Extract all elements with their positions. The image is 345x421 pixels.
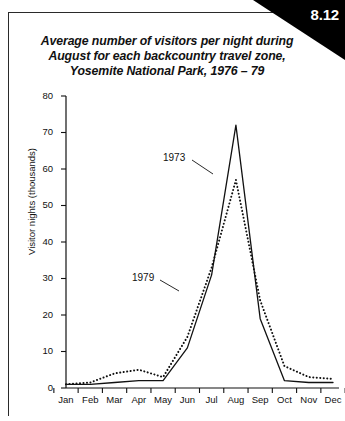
y-tick-label: 0 bbox=[27, 382, 53, 393]
figure-container: 8.12 Average number of visitors per nigh… bbox=[0, 0, 345, 421]
y-tick-label: 70 bbox=[27, 126, 53, 137]
leader-line-1979 bbox=[160, 280, 179, 291]
series-label-1979: 1979 bbox=[132, 272, 154, 283]
y-tick-label: 60 bbox=[27, 163, 53, 174]
axis-group bbox=[54, 96, 345, 393]
series-label-1973: 1973 bbox=[163, 152, 185, 163]
leader-line-1973 bbox=[192, 160, 213, 174]
leader-lines bbox=[160, 160, 213, 291]
chart-svg bbox=[0, 0, 345, 421]
y-tick-label: 80 bbox=[27, 90, 53, 101]
series-line-1979 bbox=[66, 180, 333, 384]
plot-area bbox=[0, 0, 345, 421]
y-tick-label: 30 bbox=[27, 272, 53, 283]
y-tick-label: 20 bbox=[27, 309, 53, 320]
x-tick-label: Dec bbox=[318, 394, 345, 405]
y-tick-label: 50 bbox=[27, 199, 53, 210]
y-tick-label: 10 bbox=[27, 345, 53, 356]
series-group bbox=[66, 125, 333, 384]
y-tick-label: 40 bbox=[27, 236, 53, 247]
series-line-1973 bbox=[66, 125, 333, 384]
